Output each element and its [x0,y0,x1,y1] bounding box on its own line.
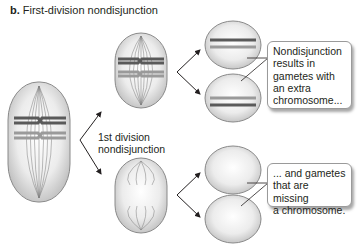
daughter-cell-empty [115,158,167,233]
callout-line: gametes with [273,70,346,82]
callout-line: chromosome... [273,94,346,106]
callout-line: a chromosome. [273,204,346,216]
callout-line: ... and gametes [273,167,346,179]
callout-line: an extra [273,82,346,94]
callout-missing-chromosome: ... and gametes that are missing a chrom… [267,163,352,207]
gamete-extra-2 [205,74,261,122]
daughter-cell-with-chromosomes [115,33,167,108]
arrow-lower-to-gamete2 [177,195,200,217]
callout-line: results in [273,57,346,69]
arrow-upper-to-gamete2 [177,72,200,94]
division-label: 1st division nondisjunction [98,131,165,155]
division-label-line1: 1st division [98,131,165,143]
arrow-lower-to-gamete1 [177,173,200,195]
gamete-missing-2 [205,195,261,243]
gamete-missing-1 [205,146,261,194]
callout-line: that are missing [273,179,346,204]
arrow-upper-to-gamete1 [177,50,200,72]
callout-extra-chromosome: Nondisjunction results in gametes with a… [267,41,352,109]
parent-cell [8,82,70,202]
callout-line: Nondisjunction [273,45,346,57]
division-label-line2: nondisjunction [98,143,165,155]
gamete-extra-1 [205,21,261,69]
